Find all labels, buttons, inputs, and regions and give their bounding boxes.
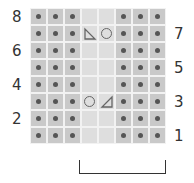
purl-dot-icon: [155, 133, 160, 138]
row-number-4: 4: [12, 78, 22, 93]
purl-dot-icon: [121, 65, 126, 70]
chart-cell-purl: [149, 127, 166, 144]
purl-dot-icon: [155, 65, 160, 70]
purl-dot-icon: [53, 82, 58, 87]
chart-cell-purl: [149, 8, 166, 25]
chart-cell-purl: [47, 59, 64, 76]
purl-dot-icon: [36, 99, 41, 104]
purl-dot-icon: [53, 133, 58, 138]
chart-cell-purl: [64, 25, 81, 42]
chart-cell-purl: [132, 42, 149, 59]
knitting-chart-grid: [30, 8, 166, 144]
chart-cell-ssk: [81, 25, 98, 42]
purl-dot-icon: [36, 82, 41, 87]
ssk-triangle-icon: [83, 27, 97, 41]
chart-cell-purl: [115, 8, 132, 25]
chart-cell-knit: [98, 76, 115, 93]
chart-cell-purl: [30, 127, 47, 144]
purl-dot-icon: [53, 116, 58, 121]
chart-cell-knit: [98, 59, 115, 76]
purl-dot-icon: [70, 99, 75, 104]
chart-cell-purl: [115, 76, 132, 93]
chart-cell-purl: [132, 76, 149, 93]
purl-dot-icon: [53, 99, 58, 104]
purl-dot-icon: [138, 65, 143, 70]
purl-dot-icon: [70, 82, 75, 87]
chart-cell-purl: [132, 93, 149, 110]
chart-cell-purl: [64, 76, 81, 93]
purl-dot-icon: [36, 31, 41, 36]
k2tog-triangle-icon: [100, 95, 114, 109]
chart-cell-yo: [98, 25, 115, 42]
purl-dot-icon: [36, 65, 41, 70]
purl-dot-icon: [53, 14, 58, 19]
chart-cell-purl: [47, 110, 64, 127]
purl-dot-icon: [70, 116, 75, 121]
chart-cell-purl: [64, 110, 81, 127]
purl-dot-icon: [121, 14, 126, 19]
purl-dot-icon: [53, 31, 58, 36]
chart-cell-purl: [47, 76, 64, 93]
chart-cell-purl: [115, 110, 132, 127]
row-number-7: 7: [174, 27, 184, 42]
row-number-3: 3: [174, 95, 184, 110]
chart-cell-knit: [98, 110, 115, 127]
chart-cell-purl: [30, 25, 47, 42]
chart-cell-purl: [132, 59, 149, 76]
chart-cell-knit: [81, 110, 98, 127]
chart-cell-purl: [132, 8, 149, 25]
purl-dot-icon: [138, 14, 143, 19]
purl-dot-icon: [53, 48, 58, 53]
chart-cell-knit: [98, 8, 115, 25]
chart-cell-purl: [30, 59, 47, 76]
chart-cell-purl: [149, 110, 166, 127]
purl-dot-icon: [155, 14, 160, 19]
row-number-8: 8: [12, 10, 22, 25]
purl-dot-icon: [121, 48, 126, 53]
purl-dot-icon: [138, 48, 143, 53]
chart-cell-purl: [64, 42, 81, 59]
purl-dot-icon: [36, 133, 41, 138]
purl-dot-icon: [155, 116, 160, 121]
row-number-5: 5: [174, 61, 184, 76]
purl-dot-icon: [121, 82, 126, 87]
purl-dot-icon: [155, 99, 160, 104]
chart-cell-purl: [149, 59, 166, 76]
purl-dot-icon: [36, 48, 41, 53]
chart-cell-purl: [149, 76, 166, 93]
chart-cell-k2tog: [98, 93, 115, 110]
purl-dot-icon: [70, 31, 75, 36]
purl-dot-icon: [155, 82, 160, 87]
chart-cell-purl: [132, 110, 149, 127]
yarn-over-icon: [84, 96, 95, 107]
chart-cell-purl: [30, 42, 47, 59]
chart-cell-knit: [81, 59, 98, 76]
chart-cell-purl: [64, 127, 81, 144]
purl-dot-icon: [138, 31, 143, 36]
purl-dot-icon: [70, 65, 75, 70]
purl-dot-icon: [155, 48, 160, 53]
chart-cell-purl: [64, 93, 81, 110]
chart-cell-purl: [64, 8, 81, 25]
chart-cell-purl: [132, 127, 149, 144]
chart-cell-purl: [47, 42, 64, 59]
chart-cell-purl: [115, 127, 132, 144]
chart-cell-purl: [115, 93, 132, 110]
purl-dot-icon: [53, 65, 58, 70]
chart-cell-knit: [98, 127, 115, 144]
chart-cell-purl: [64, 59, 81, 76]
purl-dot-icon: [138, 82, 143, 87]
purl-dot-icon: [138, 99, 143, 104]
chart-cell-purl: [30, 93, 47, 110]
row-number-6: 6: [12, 44, 22, 59]
purl-dot-icon: [36, 14, 41, 19]
chart-cell-knit: [81, 76, 98, 93]
chart-cell-knit: [98, 42, 115, 59]
chart-cell-purl: [30, 76, 47, 93]
chart-cell-yo: [81, 93, 98, 110]
purl-dot-icon: [121, 116, 126, 121]
chart-cell-purl: [47, 93, 64, 110]
chart-cell-purl: [115, 59, 132, 76]
purl-dot-icon: [70, 133, 75, 138]
chart-cell-knit: [81, 42, 98, 59]
